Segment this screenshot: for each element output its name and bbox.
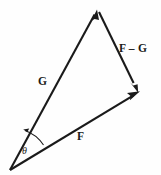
vector-label-g: G — [38, 76, 47, 88]
vector-diagram-figure: G F F – G θ — [0, 0, 161, 175]
vector-f-minus-g-arrowhead — [130, 82, 138, 93]
vector-f-shaft — [10, 95, 134, 170]
vector-label-f-minus-g: F – G — [119, 43, 147, 55]
angle-label-theta: θ — [22, 146, 27, 156]
vector-g-arrowhead — [91, 10, 99, 22]
vector-label-f: F — [77, 131, 84, 143]
angle-arc-theta — [23, 129, 43, 146]
vector-f — [10, 91, 140, 170]
